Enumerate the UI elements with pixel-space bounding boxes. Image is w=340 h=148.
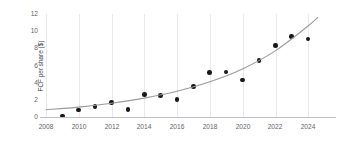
data-point — [109, 100, 114, 105]
y-axis-title-holder: FCF per share ($) — [26, 0, 36, 132]
data-point — [191, 84, 196, 89]
gridline-2024 — [308, 14, 309, 117]
data-point — [289, 34, 294, 39]
x-axis-baseline — [40, 117, 336, 118]
y-axis-title: FCF per share ($) — [37, 14, 44, 118]
data-point — [175, 97, 180, 102]
gridline-2022 — [276, 14, 277, 117]
data-point — [158, 93, 163, 98]
x-tick-2008: 2008 — [39, 124, 54, 131]
x-tick-2022: 2022 — [268, 124, 283, 131]
gridline-2008 — [46, 14, 47, 117]
data-point — [126, 107, 131, 112]
gridline-2014 — [144, 14, 145, 117]
data-point — [142, 92, 147, 97]
x-tick-2016: 2016 — [170, 124, 185, 131]
x-tick-2014: 2014 — [137, 124, 152, 131]
data-point — [76, 108, 81, 113]
data-point — [93, 104, 98, 109]
data-point — [306, 37, 311, 42]
x-tick-2024: 2024 — [301, 124, 316, 131]
plot-area — [46, 14, 308, 117]
x-tick-2018: 2018 — [203, 124, 218, 131]
data-point — [207, 70, 212, 75]
x-tick-2020: 2020 — [236, 124, 251, 131]
data-point — [257, 58, 262, 63]
data-point — [240, 78, 245, 83]
gridline-2018 — [210, 14, 211, 117]
chart-container: 0 2 4 6 8 10 12 FCF per share ($) 2008 2… — [0, 0, 340, 148]
x-tick-2010: 2010 — [72, 124, 87, 131]
gridline-2020 — [243, 14, 244, 117]
data-point — [273, 43, 278, 48]
x-tick-2012: 2012 — [105, 124, 120, 131]
data-point — [224, 70, 229, 75]
gridline-2010 — [79, 14, 80, 117]
